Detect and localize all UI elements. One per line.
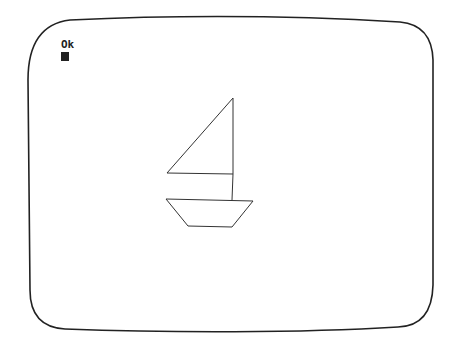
sail — [167, 98, 233, 174]
ok-prompt: Ok — [61, 39, 74, 50]
sailboat-drawing — [166, 98, 253, 227]
block-cursor-icon — [61, 52, 69, 61]
crt-screen — [0, 0, 460, 349]
mast — [232, 174, 233, 200]
hull — [166, 199, 253, 227]
